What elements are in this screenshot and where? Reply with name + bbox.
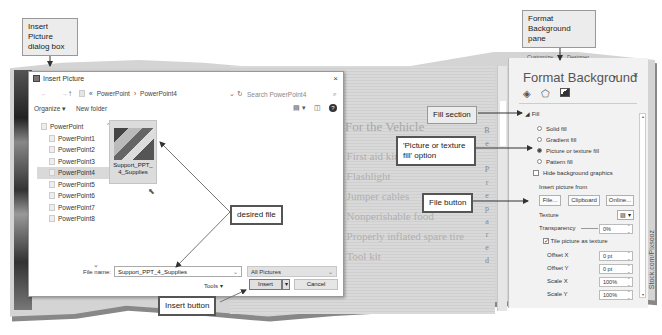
insert-picture-from-label: Insert picture from <box>539 184 587 190</box>
refresh-icon[interactable]: ⌄ ↻ <box>229 90 243 98</box>
folder-icon <box>49 215 55 222</box>
bullet: Properly inflated spare tire <box>340 226 464 246</box>
close-icon[interactable]: × <box>333 74 338 83</box>
format-background-pane: Format Background ▾ × ◈ ⬠ ◢ Fill Solid f… <box>508 58 648 308</box>
pane-category-tabs: ◈ ⬠ <box>523 88 570 99</box>
insert-picture-dialog: Insert Picture × ← → ↑ « PowerPoint › Po… <box>28 71 344 297</box>
pane-title: Format Background <box>523 70 637 85</box>
callout-format-background-pane: Format Background pane <box>522 10 596 48</box>
tree-item[interactable]: PowerPoint6 <box>37 190 109 202</box>
folder-icon <box>49 192 55 199</box>
tree-item-selected[interactable]: PowerPoint4 <box>37 167 109 179</box>
texture-label: Texture <box>539 212 559 218</box>
breadcrumb-item[interactable]: PowerPoint <box>97 90 130 97</box>
chevron-down-icon: ⌄ <box>233 268 238 275</box>
scale-y-input[interactable]: 100% <box>599 290 633 300</box>
pane-scrollbar[interactable]: ▴ ▾ <box>639 113 646 298</box>
photo-credit: Stock.com/Pixsooz <box>648 230 655 289</box>
transparency-slider[interactable] <box>581 228 598 229</box>
file-name: Support_PPT_4_Supplies <box>110 162 156 176</box>
new-folder-button[interactable]: New folder <box>76 105 107 112</box>
file-name-input[interactable]: Support_PPT_4_Supplies⌄ <box>114 266 242 277</box>
folder-icon <box>79 90 85 97</box>
view-options-icon[interactable]: ▤ ▾ <box>293 104 306 112</box>
callout-desired-file: desired file <box>230 205 283 225</box>
insert-button[interactable]: Insert <box>249 279 282 290</box>
offset-x-label: Offset X <box>547 252 569 258</box>
tree-item[interactable]: PowerPoint7 <box>37 202 109 214</box>
tree-item[interactable]: PowerPoint1 <box>37 133 109 145</box>
scale-x-input[interactable]: 100% <box>599 277 633 287</box>
folder-icon <box>41 123 47 130</box>
scale-y-label: Scale Y <box>547 291 568 297</box>
tools-button[interactable]: Tools ▾ <box>204 282 223 289</box>
transparency-label: Transparency <box>539 225 575 231</box>
slide-title: For the Vehicle <box>345 119 424 135</box>
file-button[interactable]: File... <box>539 195 561 206</box>
hide-background-graphics-checkbox[interactable]: Hide background graphics <box>533 167 613 178</box>
picture-texture-fill-radio[interactable]: Picture or texture fill <box>537 145 613 156</box>
folder-icon <box>49 135 55 142</box>
help-icon[interactable]: ? <box>329 104 337 112</box>
dialog-title: Insert Picture <box>43 75 84 82</box>
folder-icon <box>49 181 55 188</box>
scale-x-label: Scale X <box>547 278 568 284</box>
file-item-selected[interactable]: Support_PPT_4_Supplies <box>109 120 157 184</box>
picture-icon <box>33 75 40 82</box>
picture-icon[interactable] <box>560 88 570 97</box>
tree-item[interactable]: PowerPoint3 <box>37 156 109 168</box>
scroll-up-icon: ▴ <box>640 114 645 119</box>
divider <box>519 103 637 104</box>
cancel-button[interactable]: Cancel <box>294 279 338 290</box>
file-thumbnail <box>114 128 154 160</box>
callout-picture-texture-option: 'Picture or texture fill' option <box>396 136 476 166</box>
offset-x-input[interactable]: 0 pt <box>599 251 633 261</box>
tile-checkbox[interactable]: ✓ Tile picture as texture <box>543 238 608 244</box>
callout-insert-button: Insert button <box>158 296 216 316</box>
chevron-down-icon: ⌄ <box>328 268 333 275</box>
file-name-label: File name: <box>83 269 111 275</box>
tree-item[interactable]: PowerPoint2 <box>37 144 109 156</box>
online-button[interactable]: Online... <box>606 195 634 206</box>
close-icon[interactable]: × <box>633 70 638 80</box>
callout-insert-picture-dialog: Insert Picture dialog box <box>22 18 78 56</box>
file-type-select[interactable]: All Pictures⌄ <box>247 266 337 277</box>
up-arrow-icon[interactable]: ↑ <box>68 89 72 98</box>
transparency-input[interactable]: 0% <box>599 224 633 234</box>
solid-fill-radio[interactable]: Solid fill <box>537 123 613 134</box>
pattern-fill-radio[interactable]: Pattern fill <box>537 156 613 167</box>
bullet: Flashlight <box>340 166 464 186</box>
preview-pane-icon[interactable]: ◫ <box>314 104 321 112</box>
breadcrumb[interactable]: « PowerPoint › PowerPoint4 <box>79 90 177 97</box>
breadcrumb-item[interactable]: PowerPoint4 <box>140 90 177 97</box>
offset-y-input[interactable]: 0 pt <box>599 264 633 274</box>
organize-button[interactable]: Organize ▾ <box>34 105 66 113</box>
insert-dropdown-button[interactable]: ▾ <box>282 279 290 290</box>
offset-y-label: Offset Y <box>547 265 568 271</box>
search-input[interactable]: Search PowerPoint4 ⌕ <box>242 88 340 100</box>
fill-bucket-icon[interactable]: ◈ <box>523 88 531 99</box>
gradient-fill-radio[interactable]: Gradient fill <box>537 134 613 145</box>
tree-item[interactable]: PowerPoint <box>37 121 109 133</box>
folder-icon <box>49 146 55 153</box>
search-icon: ⌕ <box>333 90 337 98</box>
folder-icon <box>49 158 55 165</box>
scroll-down-icon: ▾ <box>640 292 645 297</box>
clipboard-button[interactable]: Clipboard <box>568 195 600 206</box>
address-bar: ← → ↑ « PowerPoint › PowerPoint4 ⌄ ↻ Sea… <box>29 88 343 102</box>
slide-vertical-text: Be Pre par ed <box>482 124 492 267</box>
pane-options-icon[interactable]: ▾ <box>613 73 616 80</box>
scrollbar-thumb[interactable] <box>500 101 506 146</box>
bullet: Tool kit <box>340 246 464 266</box>
pentagon-effects-icon[interactable]: ⬠ <box>541 88 550 99</box>
slide-scrollbar[interactable] <box>497 66 507 311</box>
fill-section-header[interactable]: ◢ Fill <box>525 110 539 117</box>
scroll-down-icon[interactable]: ⌄ <box>93 261 99 269</box>
folder-icon <box>49 204 55 211</box>
tree-item[interactable]: PowerPoint8 <box>37 213 109 225</box>
texture-picker[interactable]: ▨ ▾ <box>617 210 634 220</box>
fill-options: Solid fill Gradient fill Picture or text… <box>537 123 613 178</box>
folder-icon <box>49 169 55 176</box>
folder-tree: ^ PowerPoint PowerPoint1 PowerPoint2 Pow… <box>37 121 109 225</box>
tree-item[interactable]: PowerPoint5 <box>37 179 109 191</box>
